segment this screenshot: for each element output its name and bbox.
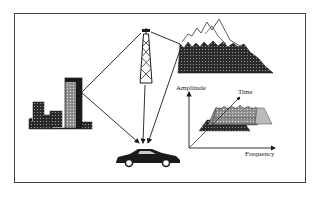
car-icon: [116, 149, 180, 167]
time-axis-label: Time: [238, 89, 253, 96]
radio-tower-icon: [140, 28, 152, 83]
frequency-axis-label: Frequency: [245, 151, 275, 158]
spectrum-inset: [189, 92, 275, 148]
path-tower-to-mountains: [151, 32, 180, 44]
signal-paths: [82, 32, 180, 143]
amplitude-axis-label: Amplitude: [176, 85, 206, 92]
path-mountains-to-car: [148, 50, 180, 143]
path-tower-to-buildings: [82, 33, 141, 92]
diagram-canvas: [0, 0, 319, 198]
city-buildings-icon: [29, 78, 92, 129]
path-tower-to-car: [143, 85, 145, 143]
mountain-range-icon: [178, 19, 273, 73]
path-buildings-to-car: [82, 93, 139, 143]
